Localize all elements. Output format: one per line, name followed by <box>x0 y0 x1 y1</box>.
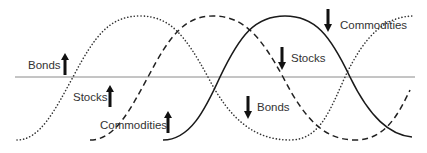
commodities-curve <box>163 16 412 140</box>
arrow-up-icon <box>61 53 69 75</box>
arrow-down-icon <box>278 47 286 70</box>
label-bonds-down: Bonds <box>257 101 290 114</box>
label-stocks-up: Stocks <box>73 91 108 104</box>
label-bonds-up: Bonds <box>28 59 61 72</box>
label-commodities-down: Commodities <box>340 19 407 32</box>
bonds-curve <box>17 16 415 140</box>
arrow-down-icon <box>324 9 332 32</box>
label-stocks-down: Stocks <box>291 52 326 65</box>
label-commodities-up: Commodities <box>100 119 167 132</box>
arrow-down-icon <box>244 96 252 119</box>
